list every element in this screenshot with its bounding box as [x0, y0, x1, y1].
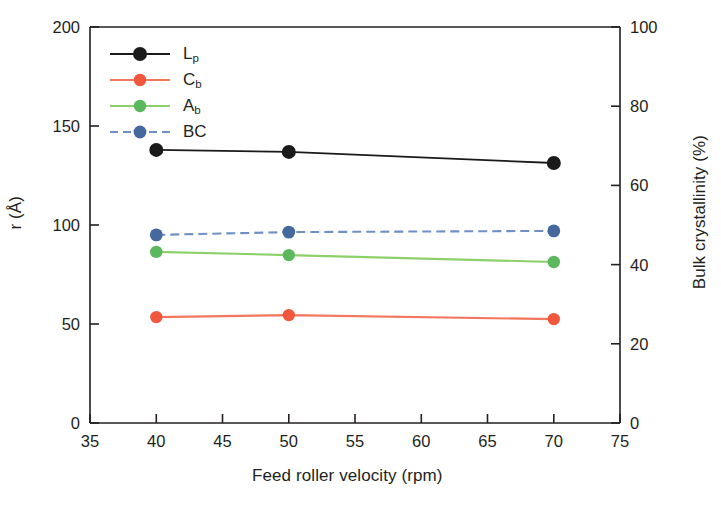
- legend-label-sub: p: [192, 52, 198, 64]
- data-point: [282, 145, 296, 159]
- xtick-label: 45: [213, 432, 231, 451]
- y-axis-label-left: r (Å): [6, 196, 26, 230]
- xtick-label: 50: [280, 432, 298, 451]
- ytick-label-left: 100: [52, 216, 80, 235]
- ytick-marks-right: [611, 27, 620, 423]
- ytick-label-left: 150: [52, 117, 80, 136]
- y-axis-label-right: Bulk crystallinity (%): [690, 135, 710, 289]
- data-point: [149, 143, 163, 157]
- ytick-label-right: 100: [630, 18, 658, 37]
- legend-label-sub: b: [195, 78, 201, 90]
- data-point: [283, 309, 295, 321]
- ytick-label-right: 60: [630, 176, 648, 195]
- data-point: [282, 226, 295, 239]
- series-line-Cb: [150, 309, 560, 325]
- legend-label-main: C: [183, 70, 195, 89]
- data-point: [548, 313, 560, 325]
- xtick-marks: [90, 414, 620, 423]
- legend-label-sub: b: [194, 104, 200, 116]
- xtick-label: 60: [412, 432, 430, 451]
- legend-label-main: A: [183, 96, 194, 115]
- legend-glyph-Cb: [110, 74, 170, 86]
- ytick-label-left: 0: [71, 414, 80, 433]
- xtick-label: 75: [611, 432, 629, 451]
- ytick-label-right: 20: [630, 334, 648, 353]
- ytick-label-right: 0: [630, 414, 639, 433]
- ytick-marks-left: [90, 27, 99, 423]
- ytick-label-left: 200: [52, 18, 80, 37]
- xtick-label: 40: [147, 432, 165, 451]
- xtick-label: 35: [81, 432, 99, 451]
- ytick-label-left: 50: [62, 315, 80, 334]
- legend-glyph-BC: [110, 126, 170, 139]
- axes-frame: [90, 27, 620, 423]
- series-line-Ab: [150, 246, 560, 269]
- xtick-label: 55: [346, 432, 364, 451]
- legend-glyph-Lp: [110, 47, 170, 61]
- data-point: [547, 225, 560, 238]
- ytick-label-right: 80: [630, 97, 648, 116]
- legend-item-Ab: Ab: [183, 96, 201, 116]
- data-point: [150, 229, 163, 242]
- legend-item-BC: BC: [183, 122, 207, 142]
- xtick-label: 65: [478, 432, 496, 451]
- x-axis-label: Feed roller velocity (rpm): [252, 466, 443, 486]
- data-point: [283, 249, 295, 261]
- xtick-label: 70: [545, 432, 563, 451]
- data-point: [547, 156, 561, 170]
- legend-glyph-Ab: [110, 100, 170, 112]
- legend-label-main: BC: [183, 122, 207, 141]
- legend-glyphs: [110, 47, 170, 138]
- data-point: [150, 246, 162, 258]
- data-point: [548, 256, 560, 268]
- ytick-label-right: 40: [630, 255, 648, 274]
- series-line-Lp: [149, 143, 561, 170]
- legend-item-Cb: Cb: [183, 70, 202, 90]
- series-line-BC: [150, 225, 560, 242]
- legend-item-Lp: Lp: [183, 44, 199, 64]
- chart-figure: 0 50 100 150 200 0 20 40 60 80 100 35 40…: [0, 0, 721, 510]
- data-point: [150, 311, 162, 323]
